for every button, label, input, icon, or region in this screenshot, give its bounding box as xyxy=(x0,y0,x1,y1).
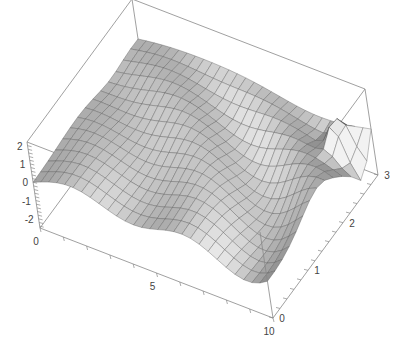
y-tick xyxy=(353,203,357,204)
tick-label: 5 xyxy=(150,281,156,292)
tick-label: 0 xyxy=(279,313,285,324)
tick-label: 2 xyxy=(349,218,355,229)
y-tick xyxy=(339,222,343,223)
y-tick xyxy=(360,193,364,194)
z-tick xyxy=(37,208,41,209)
z-tick xyxy=(38,212,42,213)
z-tick xyxy=(34,186,38,187)
y-tick xyxy=(318,250,322,251)
tick-label: 0 xyxy=(33,236,39,247)
z-tick xyxy=(30,164,34,165)
y-tick xyxy=(276,307,280,308)
z-tick xyxy=(30,160,34,161)
y-tick xyxy=(304,269,308,270)
z-tick xyxy=(36,201,40,202)
tick-label: 1 xyxy=(20,159,26,170)
z-tick xyxy=(29,157,33,158)
y-tick xyxy=(311,260,315,261)
y-tick xyxy=(283,298,287,299)
z-tick xyxy=(35,197,39,198)
y-tick xyxy=(290,288,294,289)
z-tick xyxy=(39,219,43,220)
x-tick xyxy=(273,318,274,322)
z-tick xyxy=(39,223,43,224)
tick-label: 2 xyxy=(17,141,23,152)
z-tick xyxy=(31,171,35,172)
z-tick xyxy=(38,215,42,216)
z-tick xyxy=(32,175,36,176)
tick-label: 1 xyxy=(314,265,320,276)
tick-label: 3 xyxy=(384,170,390,181)
y-tick xyxy=(367,184,371,185)
y-tick xyxy=(346,212,350,213)
z-tick xyxy=(31,168,35,169)
y-tick xyxy=(332,231,336,232)
y-tick xyxy=(325,241,329,242)
z-tick xyxy=(33,182,37,183)
z-tick xyxy=(35,193,39,194)
z-tick xyxy=(34,190,38,191)
y-tick xyxy=(269,317,273,318)
tick-label: -2 xyxy=(25,214,34,225)
z-tick xyxy=(28,149,32,150)
tick-label: -1 xyxy=(22,196,31,207)
z-tick xyxy=(29,153,33,154)
surface-mesh xyxy=(33,39,371,283)
y-tick xyxy=(297,279,301,280)
tick-label: 10 xyxy=(263,326,275,337)
tick-label: 0 xyxy=(23,177,29,188)
z-tick xyxy=(36,204,40,205)
z-tick xyxy=(28,146,32,147)
surface-plot: 0510 0123 210-1-2 xyxy=(0,0,400,350)
y-tick xyxy=(374,174,378,175)
z-axis-ticks: 210-1-2 xyxy=(17,141,44,228)
